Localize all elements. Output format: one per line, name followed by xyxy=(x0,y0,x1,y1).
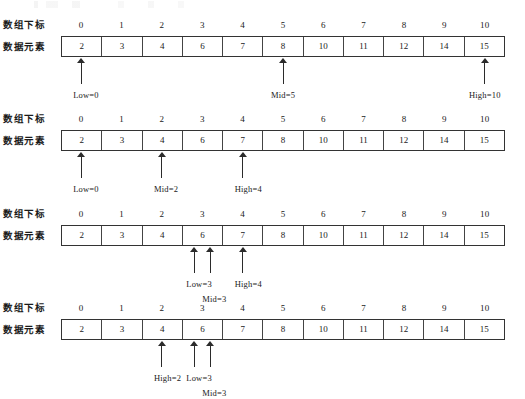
index-cell: 0 xyxy=(61,18,101,32)
data-cell: 2 xyxy=(62,226,102,245)
data-cell: 15 xyxy=(465,226,504,245)
array-index-label: 数组下标 xyxy=(3,113,45,125)
data-cell: 2 xyxy=(62,131,102,150)
pointer-label-high: High=2 xyxy=(154,373,181,384)
data-cell: 6 xyxy=(183,320,223,339)
data-row: 2346781011121415 xyxy=(61,319,505,340)
pointer-label-low: Low=3 xyxy=(186,279,212,290)
data-cell: 2 xyxy=(62,320,102,339)
arrow-shaft xyxy=(161,156,162,178)
data-cell: 12 xyxy=(384,131,424,150)
index-cell: 1 xyxy=(101,301,141,315)
data-cell: 8 xyxy=(263,131,303,150)
index-cell: 4 xyxy=(222,112,262,126)
array-index-label: 数组下标 xyxy=(3,302,45,314)
pointer-arrow-low-icon xyxy=(190,341,199,367)
data-cell: 7 xyxy=(223,37,263,56)
data-cell: 2 xyxy=(62,37,102,56)
index-cell: 1 xyxy=(101,112,141,126)
index-cell: 1 xyxy=(101,207,141,221)
index-cell: 7 xyxy=(344,18,384,32)
pointer-label-mid: Mid=2 xyxy=(154,184,178,195)
arrow-shaft xyxy=(194,251,195,273)
scan-artifact xyxy=(28,1,238,8)
arrow-shaft xyxy=(161,345,162,367)
data-cell: 11 xyxy=(344,226,384,245)
data-cell: 12 xyxy=(384,320,424,339)
index-cell: 1 xyxy=(101,18,141,32)
data-element-label: 数据元素 xyxy=(3,230,45,242)
index-cell: 7 xyxy=(344,301,384,315)
pointer-label-high: High=4 xyxy=(235,184,262,195)
pointer-label-low: Low=3 xyxy=(186,373,212,384)
arrow-shaft xyxy=(242,251,243,273)
index-cell: 5 xyxy=(263,301,303,315)
index-row: 012345678910 xyxy=(61,207,505,221)
pointer-arrow-low-icon xyxy=(190,247,199,273)
pointer-arrow-mid-icon xyxy=(206,341,215,367)
data-cell: 4 xyxy=(143,37,183,56)
index-cell: 2 xyxy=(142,207,182,221)
index-cell: 10 xyxy=(465,112,505,126)
data-element-label: 数据元素 xyxy=(3,324,45,336)
index-cell: 9 xyxy=(424,301,464,315)
data-cell: 10 xyxy=(304,37,344,56)
index-cell: 3 xyxy=(182,207,222,221)
index-cell: 4 xyxy=(222,301,262,315)
data-cell: 10 xyxy=(304,226,344,245)
index-cell: 9 xyxy=(424,18,464,32)
index-cell: 3 xyxy=(182,18,222,32)
data-cell: 7 xyxy=(223,131,263,150)
index-row: 012345678910 xyxy=(61,301,505,315)
arrow-shaft xyxy=(210,345,211,367)
index-cell: 9 xyxy=(424,207,464,221)
data-cell: 6 xyxy=(183,37,223,56)
pointer-label-mid: Mid=5 xyxy=(257,90,309,101)
data-cell: 8 xyxy=(263,226,303,245)
index-cell: 2 xyxy=(142,112,182,126)
data-row: 2346781011121415 xyxy=(61,36,505,57)
pointer-arrow-high-icon xyxy=(238,152,247,178)
data-cell: 3 xyxy=(102,131,142,150)
pointer-arrow-high-icon xyxy=(238,247,247,273)
pointer-label-high: High=4 xyxy=(235,279,262,290)
pointer-arrow-mid-icon xyxy=(206,247,215,273)
index-row: 012345678910 xyxy=(61,112,505,126)
pointer-label-mid: Mid=3 xyxy=(202,388,226,399)
index-cell: 2 xyxy=(142,301,182,315)
index-cell: 5 xyxy=(263,18,303,32)
index-cell: 3 xyxy=(182,301,222,315)
index-cell: 6 xyxy=(303,112,343,126)
pointer-label-low: Low=0 xyxy=(73,90,99,101)
index-cell: 9 xyxy=(424,112,464,126)
data-cell: 15 xyxy=(465,131,504,150)
data-cell: 15 xyxy=(465,320,504,339)
pointer-arrow-low-icon xyxy=(77,58,86,84)
index-cell: 7 xyxy=(344,112,384,126)
pointer-label-high: High=10 xyxy=(459,90,511,101)
index-cell: 8 xyxy=(384,207,424,221)
data-cell: 6 xyxy=(183,226,223,245)
index-cell: 0 xyxy=(61,112,101,126)
data-cell: 12 xyxy=(384,226,424,245)
index-cell: 6 xyxy=(303,207,343,221)
data-cell: 14 xyxy=(424,131,464,150)
arrow-shaft xyxy=(484,62,485,84)
data-cell: 6 xyxy=(183,131,223,150)
data-element-label: 数据元素 xyxy=(3,41,45,53)
index-cell: 6 xyxy=(303,18,343,32)
arrow-shaft xyxy=(242,156,243,178)
data-row: 2346781011121415 xyxy=(61,225,505,246)
data-row: 2346781011121415 xyxy=(61,130,505,151)
index-cell: 2 xyxy=(142,18,182,32)
array-index-label: 数组下标 xyxy=(3,208,45,220)
index-cell: 7 xyxy=(344,207,384,221)
arrow-shaft xyxy=(210,251,211,273)
index-cell: 4 xyxy=(222,207,262,221)
index-cell: 5 xyxy=(263,207,303,221)
data-cell: 12 xyxy=(384,37,424,56)
data-cell: 10 xyxy=(304,320,344,339)
data-cell: 11 xyxy=(344,131,384,150)
array-index-label: 数组下标 xyxy=(3,19,45,31)
pointer-arrow-high-icon xyxy=(480,58,489,84)
